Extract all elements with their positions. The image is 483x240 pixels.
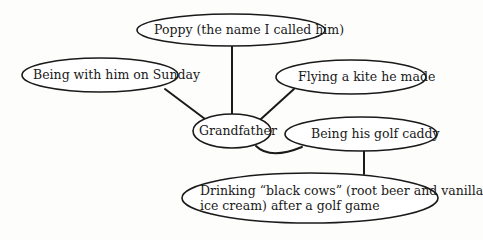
node-caddy-label: Being his golf caddy	[311, 127, 440, 141]
node-sunday-label: Being with him on Sunday	[33, 68, 200, 82]
edge-grandfather-caddy	[256, 146, 302, 153]
node-poppy-label: Poppy (the name I called him)	[154, 23, 344, 37]
node-blackcows-label-line2: ice cream) after a golf game	[200, 199, 380, 213]
node-blackcows-label-line1: Drinking “black cows” (root beer and van…	[200, 184, 483, 198]
edge-grandfather-sunday	[165, 89, 205, 119]
node-kite-label: Flying a kite he made	[298, 70, 435, 84]
edge-grandfather-kite	[261, 89, 294, 119]
node-grandfather-label: Grandfather	[199, 124, 277, 138]
